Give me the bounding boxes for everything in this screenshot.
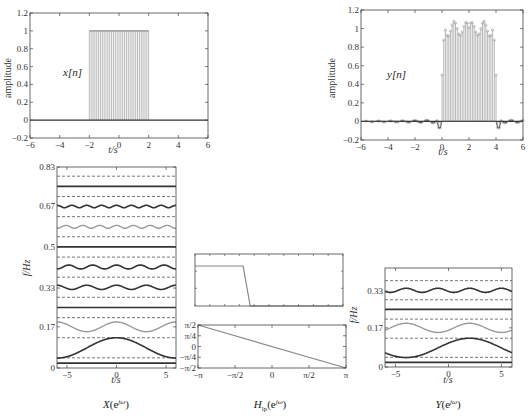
spectrum-line-f4 <box>57 285 176 289</box>
x-tick-label: π/2 <box>303 370 315 380</box>
figure-canvas: −6−4−20246−0.200.20.40.60.811.2 −6−4−202… <box>0 0 530 419</box>
y-tick-label: 0 <box>192 342 197 352</box>
x-tick-label: 4 <box>494 142 499 152</box>
x-tick-label: −2 <box>85 140 95 150</box>
x-signal-label: x[n] <box>62 66 82 78</box>
x-tick-label: 5 <box>499 369 504 379</box>
y-tick-label: 0.2 <box>17 97 28 107</box>
spectrum-line-f1 <box>57 338 176 358</box>
y-tick-label: 0.67 <box>39 201 55 211</box>
hmag-frame <box>195 254 343 306</box>
y-tick-label: 0.2 <box>348 98 359 108</box>
y-tick-label: −0.2 <box>12 133 28 143</box>
caption-X: XX(e(ejω) <box>102 398 129 411</box>
y-plot-xlabel: t/s <box>438 146 448 157</box>
x-tick-label: −2 <box>410 142 420 152</box>
y-tick-label: 0.4 <box>348 79 360 89</box>
y-tick-label: 0.17 <box>367 323 383 333</box>
y-tick-label: π/2 <box>184 320 196 330</box>
spectrum-line-f1 <box>385 338 512 357</box>
x-tick-label: −5 <box>391 369 401 379</box>
x-tick-label: 2 <box>467 142 472 152</box>
x-tick-label: −5 <box>62 370 72 380</box>
caption-H: Hlp(ejω) <box>253 398 287 413</box>
y-tick-label: 0.83 <box>39 162 55 172</box>
plot-y-signal: −6−4−20246−0.200.20.40.60.811.2 <box>343 5 526 152</box>
y-tick-label: 1 <box>355 24 360 34</box>
y-signal-label: y[n] <box>386 68 406 80</box>
plot-Y-frame <box>385 268 512 367</box>
spectrum-line-f8 <box>57 205 176 207</box>
spectrum-line-f7 <box>57 225 176 228</box>
spectrum-line-f2 <box>385 323 512 332</box>
y-tick-label: 1.2 <box>17 8 28 18</box>
plot-filter-magnitude <box>195 254 343 306</box>
caption-Y: Y(ejω) <box>435 398 461 411</box>
y-tick-label: 0.33 <box>367 286 383 296</box>
x-tick-label: 6 <box>521 142 526 152</box>
y-tick-label: 1 <box>24 26 29 36</box>
y-plot-ylabel: amplitude <box>326 57 337 98</box>
x-plot-ylabel: amplitude <box>2 57 13 98</box>
y-tick-label: 0.5 <box>44 242 56 252</box>
y-tick-label: −π/2 <box>179 363 196 373</box>
magnitude-line <box>195 266 343 306</box>
y-tick-label: 0.17 <box>39 322 55 332</box>
x-tick-label: 5 <box>164 370 169 380</box>
x-tick-label: 0 <box>270 370 275 380</box>
x-plot-xlabel: t/s <box>108 144 118 155</box>
plot-x-spectrum: −50500.170.330.50.670.83 <box>39 162 176 380</box>
y-tick-label: 0.8 <box>17 44 29 54</box>
X-spectrum-xlabel: t/s <box>111 374 121 385</box>
y-tick-label: 0.4 <box>17 79 29 89</box>
y-tick-label: −0.2 <box>343 135 359 145</box>
spectrum-line-f4 <box>385 288 512 292</box>
x-tick-label: −4 <box>55 140 65 150</box>
x-tick-label: π <box>344 370 349 380</box>
y-tick-label: 0.8 <box>348 42 360 52</box>
y-tick-label: 0 <box>24 115 29 125</box>
y-tick-label: 1.2 <box>348 5 359 15</box>
x-tick-label: −π/2 <box>227 370 244 380</box>
Y-spectrum-xlabel: t/s <box>443 374 453 385</box>
y-tick-label: π/4 <box>184 331 196 341</box>
x-tick-label: 6 <box>206 140 211 150</box>
x-tick-label: 4 <box>176 140 181 150</box>
y-tick-label: 0.6 <box>17 62 29 72</box>
plot-filter-phase: −π−π/20π/2π−π/2−π/40π/4π/2 <box>179 320 348 380</box>
y-tick-label: 0 <box>51 363 56 373</box>
y-tick-label: −π/4 <box>179 352 196 362</box>
spectrum-line-f5 <box>57 265 176 269</box>
x-tick-label: −4 <box>383 142 393 152</box>
plot-y-spectrum: −50500.170.33 <box>367 268 512 379</box>
X-spectrum-ylabel: f/Hz <box>21 260 32 277</box>
y-tick-label: 0 <box>379 362 384 372</box>
y-tick-label: 0 <box>355 116 360 126</box>
Y-spectrum-ylabel: f/Hz <box>348 307 359 324</box>
x-tick-label: 2 <box>146 140 151 150</box>
phase-line <box>198 325 346 368</box>
plot-x-signal: −6−4−20246−0.200.20.40.60.811.2 <box>12 8 211 150</box>
spectrum-line-f2 <box>57 322 176 332</box>
y-tick-label: 0.6 <box>348 61 360 71</box>
y-tick-label: 0.33 <box>39 283 55 293</box>
